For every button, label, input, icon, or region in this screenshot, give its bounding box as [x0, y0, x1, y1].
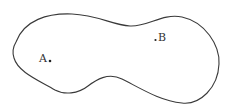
point-a-label: A	[38, 52, 48, 65]
point-a-dot	[49, 60, 52, 63]
diagram-canvas: A B	[0, 0, 228, 107]
point-b-dot	[154, 39, 156, 41]
point-b-label: B	[158, 31, 166, 44]
